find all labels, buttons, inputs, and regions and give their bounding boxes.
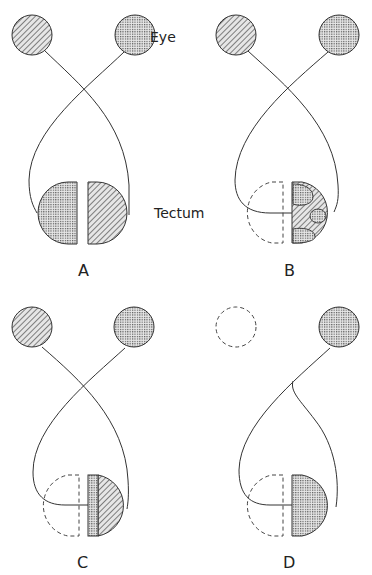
dotted-patch-middle bbox=[310, 209, 326, 223]
panel-c: C bbox=[12, 307, 154, 572]
right-eye-dotted bbox=[115, 15, 155, 55]
right-tectum-dotted-strip bbox=[88, 475, 98, 536]
right-eye-dotted bbox=[319, 15, 359, 55]
right-eye-dotted bbox=[114, 307, 154, 347]
right-tectum-dotted bbox=[292, 475, 327, 536]
panel-b: B bbox=[216, 15, 359, 280]
panel-label-b: B bbox=[284, 261, 295, 280]
panel-label-c: C bbox=[77, 553, 88, 572]
right-tectum-hatched bbox=[88, 182, 127, 244]
panel-d: D bbox=[216, 307, 359, 572]
left-tectum-dotted bbox=[38, 182, 77, 244]
left-eye-hatched bbox=[216, 15, 256, 55]
panel-a: Eye Tectum A bbox=[12, 15, 204, 280]
panel-label-a: A bbox=[78, 261, 89, 280]
tectum-label: Tectum bbox=[153, 205, 204, 221]
left-eye-hatched bbox=[12, 15, 52, 55]
retinotectal-diagram: Eye Tectum A B C D bbox=[0, 0, 372, 575]
left-eye-removed bbox=[216, 307, 256, 347]
right-eye-dotted bbox=[319, 307, 359, 347]
right-tectum-hatched bbox=[98, 475, 123, 536]
eye-label: Eye bbox=[150, 29, 176, 45]
panel-label-d: D bbox=[283, 553, 295, 572]
left-eye-hatched bbox=[12, 307, 52, 347]
